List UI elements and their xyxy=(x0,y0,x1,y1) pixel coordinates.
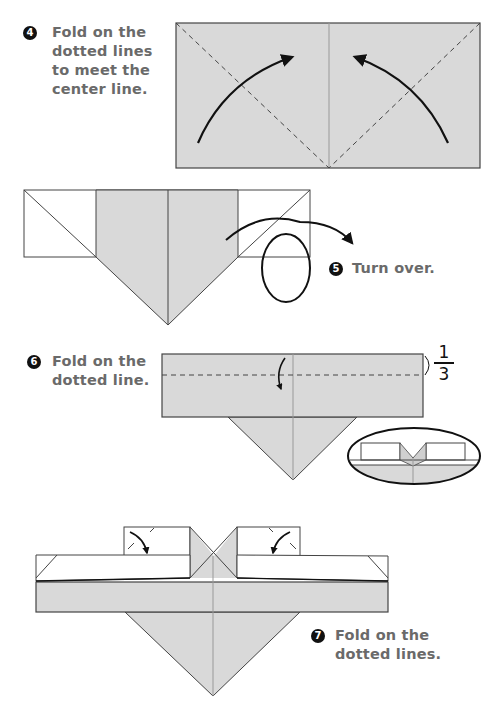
step-6-label: 6 Fold on the dotted line. xyxy=(52,352,149,390)
step-4-figure xyxy=(176,23,480,168)
paper-rectangle xyxy=(176,23,480,168)
step-instruction: Turn over. xyxy=(352,259,435,278)
fraction-denominator: 3 xyxy=(439,364,450,384)
detail-inset xyxy=(346,426,486,487)
fraction-numerator: 1 xyxy=(439,342,450,362)
step-instruction: Fold on the dotted lines to meet the cen… xyxy=(52,23,153,99)
one-third-bracket xyxy=(425,356,429,375)
folded-center xyxy=(96,190,238,325)
step-7-label: 7 Fold on the dotted lines. xyxy=(335,626,441,664)
step-7-figure xyxy=(36,527,388,696)
one-third-fraction: 1 3 xyxy=(434,344,454,383)
step-5-label: 5 Turn over. xyxy=(352,259,435,278)
step-number-badge: 5 xyxy=(329,262,343,276)
step-instruction: Fold on the dotted lines. xyxy=(335,626,441,664)
step-4-label: 4 Fold on the dotted lines to meet the c… xyxy=(52,23,153,99)
step-5-figure xyxy=(24,190,352,325)
step-instruction: Fold on the dotted line. xyxy=(52,352,149,390)
step-number-badge: 4 xyxy=(23,26,37,40)
step-number-badge: 7 xyxy=(311,629,325,643)
step-number-badge: 6 xyxy=(27,355,41,369)
